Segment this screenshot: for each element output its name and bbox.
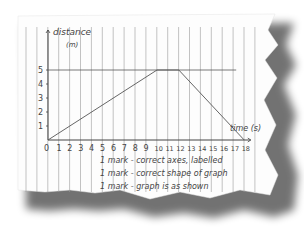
x-tick-label: 11 bbox=[165, 145, 173, 153]
marking-note: 1 mark - graph is as shown bbox=[100, 182, 208, 191]
x-tick-label: 4 bbox=[89, 144, 94, 153]
x-tick-label: 15 bbox=[209, 145, 217, 153]
y-axis-label: distance bbox=[53, 27, 92, 37]
y-tick-label: 5 bbox=[38, 66, 43, 75]
x-tick-label: 9 bbox=[144, 144, 149, 153]
x-tick-label: 5 bbox=[100, 144, 105, 153]
x-axis-label: time (s) bbox=[230, 124, 261, 133]
marking-note: 1 mark - correct shape of graph bbox=[100, 169, 227, 178]
x-tick-label: 14 bbox=[198, 145, 206, 153]
y-tick-label: 1 bbox=[38, 122, 43, 131]
x-tick-label: 8 bbox=[133, 144, 138, 153]
x-tick-label: 17 bbox=[231, 145, 239, 153]
y-tick-label: 4 bbox=[38, 80, 43, 89]
y-tick-label: 3 bbox=[38, 94, 43, 103]
x-tick-label: 1 bbox=[56, 144, 61, 153]
torn-paper-chart: distance(m)time (s)012345678910111213141… bbox=[0, 0, 304, 232]
y-tick-label: 2 bbox=[38, 108, 43, 117]
marking-note: 1 mark - correct axes, labelled bbox=[100, 156, 223, 165]
x-tick-label: 7 bbox=[122, 144, 127, 153]
x-tick-label: 0 bbox=[44, 144, 49, 153]
x-tick-label: 16 bbox=[220, 145, 228, 153]
x-tick-label: 18 bbox=[242, 145, 250, 153]
x-tick-label: 13 bbox=[187, 145, 195, 153]
y-axis-unit: (m) bbox=[66, 41, 79, 49]
x-tick-label: 2 bbox=[67, 144, 72, 153]
x-tick-label: 6 bbox=[111, 144, 116, 153]
x-tick-label: 3 bbox=[78, 144, 83, 153]
x-tick-label: 12 bbox=[176, 145, 184, 153]
x-tick-label: 10 bbox=[155, 145, 163, 153]
